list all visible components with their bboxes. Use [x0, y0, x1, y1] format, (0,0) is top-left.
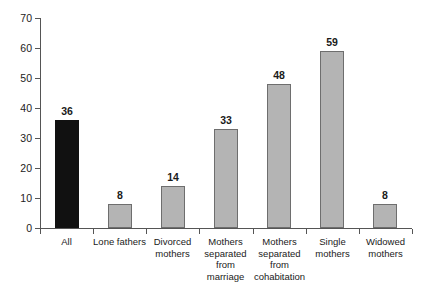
x-axis-tick	[412, 229, 413, 234]
category-label: Lone fathers	[93, 236, 146, 248]
category-label-line: Mothers	[199, 236, 252, 248]
bar	[214, 129, 238, 228]
bar	[108, 204, 132, 228]
x-axis-line	[40, 228, 412, 229]
category-label-line: Single	[306, 236, 359, 248]
y-axis-tick-label: 30	[0, 133, 32, 143]
bar	[55, 120, 79, 228]
y-axis-tick	[35, 138, 40, 139]
x-axis-tick	[306, 229, 307, 234]
y-axis-tick-label-text: 60	[6, 43, 32, 53]
category-label: Widowedmothers	[359, 236, 412, 259]
y-axis-tick-label: 50	[0, 73, 32, 83]
bar	[161, 186, 185, 228]
category-label-line: Mothers	[253, 236, 306, 248]
bar-value-label: 8	[100, 190, 140, 201]
bar-value-label: 59	[312, 37, 352, 48]
category-label: Singlemothers	[306, 236, 359, 259]
category-label-line: mothers	[146, 248, 199, 260]
category-label-line: Divorced	[146, 236, 199, 248]
x-axis-tick	[253, 229, 254, 234]
category-label-line: separated	[253, 248, 306, 260]
y-axis-tick-label: 40	[0, 103, 32, 113]
y-axis-tick-label: 60	[0, 43, 32, 53]
category-label-line: mothers	[306, 248, 359, 260]
y-axis-tick-label-text: 0	[6, 223, 32, 233]
y-axis-line	[40, 18, 41, 229]
bar-value-label: 14	[153, 172, 193, 183]
category-label: All	[40, 236, 93, 248]
y-axis-tick-label: 70	[0, 13, 32, 23]
y-axis-tick	[35, 78, 40, 79]
y-axis-tick	[35, 18, 40, 19]
category-label-line: separated	[199, 248, 252, 260]
category-label-line: Widowed	[359, 236, 412, 248]
bar	[267, 84, 291, 228]
y-axis-tick-label: 0	[0, 223, 32, 233]
y-axis-tick	[35, 198, 40, 199]
y-axis-tick-label-text: 40	[6, 103, 32, 113]
bar-value-label: 33	[206, 115, 246, 126]
x-axis-tick	[146, 229, 147, 234]
bar	[373, 204, 397, 228]
bar	[320, 51, 344, 228]
y-axis-tick	[35, 108, 40, 109]
category-label-line: All	[40, 236, 93, 248]
category-label-line: from	[253, 259, 306, 271]
category-label: Mothersseparatedfrommarriage	[199, 236, 252, 282]
category-label-line: marriage	[199, 271, 252, 283]
x-axis-tick	[93, 229, 94, 234]
category-label: Divorcedmothers	[146, 236, 199, 259]
category-label: Mothersseparatedfromcohabitation	[253, 236, 306, 282]
y-axis-tick	[35, 48, 40, 49]
y-axis-tick	[35, 168, 40, 169]
y-axis-tick-label-text: 50	[6, 73, 32, 83]
bar-chart: 010203040506070 368143348598 AllLone fat…	[0, 0, 422, 290]
y-axis-tick-label-text: 30	[6, 133, 32, 143]
category-label-line: cohabitation	[253, 271, 306, 283]
y-axis-tick-label-text: 20	[6, 163, 32, 173]
x-axis-tick	[40, 229, 41, 234]
bar-value-label: 48	[259, 70, 299, 81]
y-axis-tick-label: 20	[0, 163, 32, 173]
x-axis-tick	[359, 229, 360, 234]
category-label-line: mothers	[359, 248, 412, 260]
x-axis-tick	[199, 229, 200, 234]
bar-value-label: 8	[365, 190, 405, 201]
y-axis-tick-label: 10	[0, 193, 32, 203]
category-label-line: Lone fathers	[93, 236, 146, 248]
y-axis-tick-label-text: 70	[6, 13, 32, 23]
bar-value-label: 36	[47, 106, 87, 117]
y-axis-tick-label-text: 10	[6, 193, 32, 203]
category-label-line: from	[199, 259, 252, 271]
